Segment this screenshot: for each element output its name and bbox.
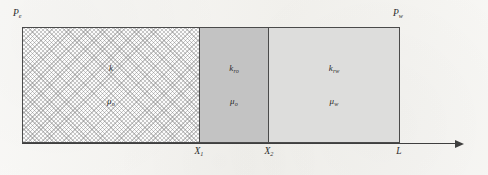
pressure-right-symbol: P	[393, 8, 399, 18]
region-oil-zone: k μo	[23, 28, 199, 142]
axis-label-length: L	[396, 147, 401, 157]
region-3-permeability-label: krw	[329, 64, 340, 73]
reservoir-diagram: Pe Pw k μo kro μo krw μw	[0, 0, 488, 175]
axis-label-x1-subscript: 1	[200, 150, 203, 157]
pressure-left-symbol: P	[13, 8, 19, 18]
pressure-label-right: Pw	[393, 9, 403, 19]
axis-label-x1: X1	[195, 147, 204, 157]
axis-label-x2-subscript: 2	[270, 150, 273, 157]
axis-label-x2: X2	[265, 147, 274, 157]
axis-arrowhead-icon	[455, 140, 464, 148]
region-2-viscosity-subscript: o	[235, 101, 238, 107]
region-1-permeability-symbol: k	[109, 63, 113, 73]
region-transition-zone: kro μo	[199, 28, 269, 142]
region-1-permeability-label: k	[109, 64, 113, 73]
axis-label-x2-symbol: X	[265, 146, 271, 156]
pressure-label-left: Pe	[13, 9, 22, 19]
axis-label-x1-symbol: X	[195, 146, 201, 156]
region-1-viscosity-label: μo	[107, 97, 115, 106]
region-3-permeability-subscript: rw	[333, 68, 339, 74]
reservoir-box: k μo kro μo krw μw	[22, 27, 400, 143]
horizontal-axis-line	[22, 143, 460, 144]
region-water-zone: krw μw	[269, 28, 399, 142]
region-2-permeability-symbol: k	[229, 63, 233, 73]
region-3-viscosity-subscript: w	[334, 101, 338, 107]
pressure-right-subscript: w	[399, 12, 403, 19]
region-2-permeability-subscript: ro	[234, 68, 239, 74]
region-1-viscosity-subscript: o	[112, 101, 115, 107]
region-2-viscosity-label: μo	[230, 97, 238, 106]
region-3-viscosity-label: μw	[330, 97, 339, 106]
pressure-left-subscript: e	[19, 12, 22, 19]
region-2-permeability-label: kro	[229, 64, 238, 73]
axis-label-length-symbol: L	[396, 146, 401, 156]
